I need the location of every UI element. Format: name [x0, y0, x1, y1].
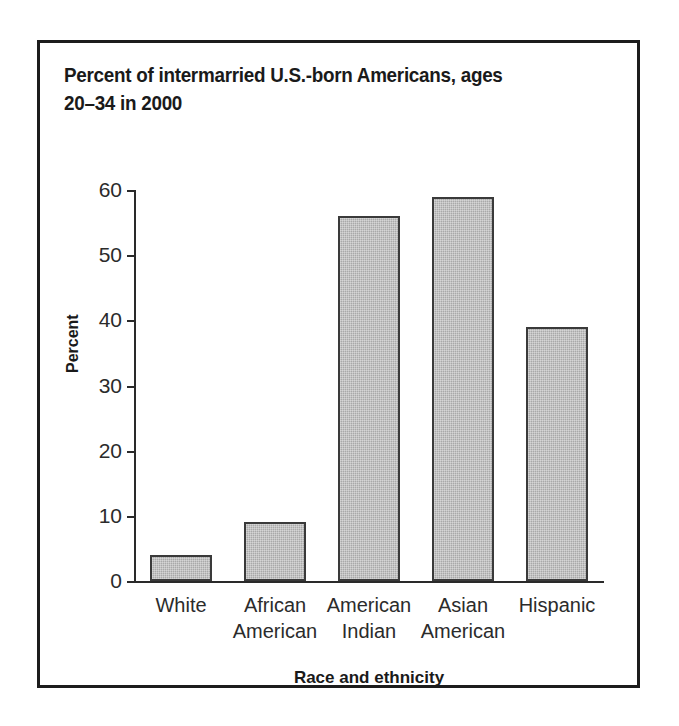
- y-axis-tick-mark: [127, 386, 134, 388]
- y-axis-tick-label: 50: [99, 243, 122, 267]
- x-axis-tick-label: White: [134, 592, 228, 618]
- bar: [244, 522, 306, 581]
- plot-area: 0102030405060 WhiteAfricanAmericanAmeric…: [134, 190, 604, 581]
- x-axis-tick-label: AmericanIndian: [322, 592, 416, 644]
- bar: [432, 197, 494, 581]
- y-axis-tick-mark: [127, 255, 134, 257]
- y-axis-tick-label: 0: [110, 569, 122, 593]
- x-axis-tick-label-line: African: [228, 592, 322, 618]
- x-axis-tick-label: AsianAmerican: [416, 592, 510, 644]
- y-axis-tick-label: 10: [99, 504, 122, 528]
- y-axis-tick-mark: [127, 190, 134, 192]
- y-axis-tick-mark: [127, 581, 134, 583]
- y-axis-tick-label: 60: [99, 178, 122, 202]
- y-axis-tick-label: 40: [99, 308, 122, 332]
- y-axis-tick-label: 20: [99, 439, 122, 463]
- bar: [526, 327, 588, 581]
- bar: [150, 555, 212, 581]
- x-axis-tick-label-line: American: [416, 618, 510, 644]
- x-axis-tick-label-line: American: [228, 618, 322, 644]
- y-axis-tick-mark: [127, 451, 134, 453]
- y-axis-line: [134, 190, 136, 581]
- x-axis-tick-label-line: Indian: [322, 618, 416, 644]
- y-axis-tick-label: 30: [99, 374, 122, 398]
- bar: [338, 216, 400, 581]
- x-axis-tick-label-line: Hispanic: [510, 592, 604, 618]
- x-axis-tick-label: AfricanAmerican: [228, 592, 322, 644]
- x-axis-tick-label-line: Asian: [416, 592, 510, 618]
- chart-figure-frame: Percent of intermarried U.S.-born Americ…: [37, 40, 640, 688]
- y-axis-tick-mark: [127, 320, 134, 322]
- x-axis-title: Race and ethnicity: [134, 668, 604, 688]
- y-axis-title: Percent: [64, 314, 82, 373]
- x-axis-tick-label-line: White: [134, 592, 228, 618]
- x-axis-line: [134, 581, 604, 583]
- chart-title-line-1: Percent of intermarried U.S.-born Americ…: [64, 61, 561, 89]
- x-axis-tick-label: Hispanic: [510, 592, 604, 618]
- y-axis-tick-mark: [127, 516, 134, 518]
- chart-title: Percent of intermarried U.S.-born Americ…: [64, 61, 561, 117]
- chart-title-line-2: 20–34 in 2000: [64, 89, 561, 117]
- x-axis-tick-label-line: American: [322, 592, 416, 618]
